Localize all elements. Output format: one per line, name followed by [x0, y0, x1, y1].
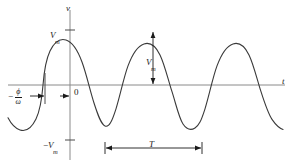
vm-negative-subscript: m	[53, 148, 58, 155]
period-label: T	[149, 140, 154, 149]
y-tick-label-vm-positive: Vm	[50, 25, 60, 44]
x-axis-label: t	[282, 77, 285, 86]
origin-label: 0	[74, 88, 79, 97]
vm-positive-subscript: m	[55, 38, 60, 45]
phase-denominator: ω	[15, 98, 22, 106]
phase-fraction: ϕ ω	[15, 88, 22, 106]
phase-shift-label: − ϕ ω	[8, 88, 22, 106]
amplitude-subscript: m	[151, 65, 156, 72]
phase-sign: −	[8, 92, 13, 101]
y-axis-label: v	[66, 4, 70, 13]
phase-numerator: ϕ	[15, 88, 21, 97]
amplitude-label: Vm	[146, 52, 156, 71]
y-tick-label-vm-negative: −Vm	[43, 135, 58, 154]
waveform-figure: v t Vm −Vm 0 Vm T − ϕ ω	[0, 0, 293, 165]
